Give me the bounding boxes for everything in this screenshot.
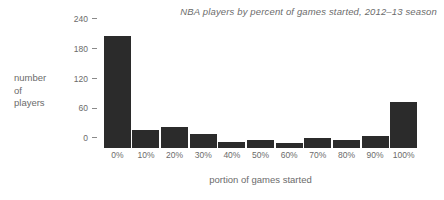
y-axis-tick-label: 0 (83, 133, 88, 143)
plot-area: 0 60 120 180 240 (103, 29, 418, 148)
x-axis-title: portion of games started (103, 174, 418, 185)
bar-slot (332, 29, 361, 148)
x-axis-tick-label: 20% (160, 150, 189, 160)
bar-slot (275, 29, 304, 148)
bar-slot (103, 29, 132, 148)
chart-title: NBA players by percent of games started,… (0, 6, 437, 17)
bar (104, 36, 131, 148)
bar (161, 127, 188, 148)
bar (304, 138, 331, 148)
bar-slot (132, 29, 161, 148)
bar (362, 136, 389, 148)
x-axis-tick-label: 40% (218, 150, 247, 160)
x-axis-tick-label: 80% (332, 150, 361, 160)
y-axis-title: number of players (14, 72, 80, 110)
y-axis-tick-label: 240 (74, 14, 88, 24)
x-axis-tick-label: 60% (275, 150, 304, 160)
bar (218, 142, 245, 148)
bar-slot (189, 29, 218, 148)
x-axis-tick-label: 50% (246, 150, 275, 160)
bar (132, 130, 159, 148)
bar-slot (389, 29, 418, 148)
bar-slot (246, 29, 275, 148)
bar (390, 102, 417, 148)
y-axis-title-line-1: number (14, 72, 80, 85)
y-axis-tick-240: 240 (74, 14, 103, 24)
tick-dash-icon (92, 18, 97, 19)
x-axis-tick-label: 70% (303, 150, 332, 160)
y-axis-title-line-2: of (14, 85, 80, 98)
bar-slot (160, 29, 189, 148)
bar-slot (218, 29, 247, 148)
bar-slot (361, 29, 390, 148)
y-axis-tick-120: 120 (74, 74, 103, 84)
tick-dash-icon (92, 78, 97, 79)
y-axis-tick-0: 0 (83, 133, 103, 143)
x-axis-tick-label: 90% (361, 150, 390, 160)
bar (190, 134, 217, 148)
x-axis-tick-label: 0% (103, 150, 132, 160)
bar (247, 140, 274, 148)
x-axis-tick-labels: 0% 10% 20% 30% 40% 50% 60% 70% 80% 90% 1… (103, 150, 418, 160)
bar-series (103, 29, 418, 148)
y-axis-tick-60: 60 (79, 103, 103, 113)
y-axis-tick-180: 180 (74, 44, 103, 54)
y-axis-tick-label: 120 (74, 74, 88, 84)
x-axis-tick-label: 30% (189, 150, 218, 160)
x-axis-tick-label: 10% (132, 150, 161, 160)
y-axis-tick-label: 60 (79, 103, 88, 113)
bar (276, 143, 303, 148)
bar (333, 140, 360, 148)
tick-dash-icon (92, 48, 97, 49)
x-axis-tick-label: 100% (389, 150, 418, 160)
y-axis-tick-label: 180 (74, 44, 88, 54)
chart-figure: NBA players by percent of games started,… (0, 0, 444, 200)
bar-slot (303, 29, 332, 148)
tick-dash-icon (92, 137, 97, 138)
y-axis-title-line-3: players (14, 97, 80, 110)
tick-dash-icon (92, 108, 97, 109)
